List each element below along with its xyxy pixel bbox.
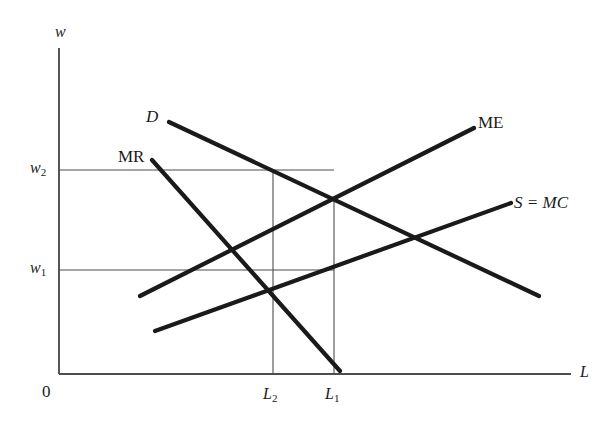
curve-label-supply-marginal-cost: S = MC	[514, 194, 568, 211]
y-tick-label-w2: w2	[30, 160, 46, 178]
curve-marginal-expense	[140, 128, 474, 296]
x-axis-label: L	[580, 364, 589, 380]
x-tick-L1-base: L	[325, 385, 334, 402]
x-tick-L1-subscript: 1	[334, 392, 340, 404]
y-tick-w1-base: w	[30, 259, 41, 276]
x-tick-L2-base: L	[263, 385, 272, 402]
y-tick-w1-subscript: 1	[41, 266, 47, 278]
x-tick-label-L1: L1	[325, 386, 339, 404]
curve-marginal-revenue	[152, 160, 340, 371]
y-axis-label: w	[55, 24, 66, 40]
origin-label: 0	[42, 383, 51, 400]
x-tick-L2-subscript: 2	[272, 392, 278, 404]
curve-label-marginal-expense: ME	[478, 114, 504, 131]
guide-lines-group	[59, 170, 334, 374]
y-tick-label-w1: w1	[30, 260, 46, 278]
y-tick-w2-base: w	[30, 159, 41, 176]
curves-group	[140, 122, 539, 371]
curve-label-marginal-revenue: MR	[118, 148, 144, 165]
x-tick-label-L2: L2	[263, 386, 277, 404]
economics-diagram-figure: w L 0 w2 w1 L2 L1 D MR ME S = MC	[0, 0, 614, 421]
curve-label-demand: D	[146, 108, 158, 125]
curve-label-supply-text: S = MC	[514, 193, 568, 212]
y-tick-w2-subscript: 2	[41, 166, 47, 178]
